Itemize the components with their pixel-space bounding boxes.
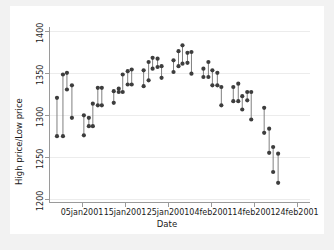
y-tick-label-1350: 1350	[36, 65, 45, 85]
data-point-low	[245, 98, 249, 102]
data-point-high	[87, 116, 91, 120]
data-point-low	[262, 131, 266, 135]
data-point-low	[249, 117, 253, 121]
y-axis-title: High price/Low price	[14, 98, 24, 185]
data-point-low	[87, 124, 91, 128]
data-point-high	[100, 86, 104, 90]
data-point-high	[61, 72, 65, 76]
data-point-low	[176, 64, 180, 68]
data-point-high	[126, 69, 130, 73]
x-tick-14feb2001	[254, 203, 255, 207]
data-point-low	[276, 181, 280, 185]
y-tick-label-1250: 1250	[36, 149, 45, 169]
data-point-low	[142, 84, 146, 88]
data-point-high	[206, 60, 210, 64]
data-point-low	[215, 83, 219, 87]
data-point-low	[112, 101, 116, 105]
data-point-low	[240, 107, 244, 111]
data-point-high	[171, 58, 175, 62]
data-point-low	[121, 90, 125, 94]
x-tick-05jan2001	[82, 203, 83, 207]
data-point-high	[271, 145, 275, 149]
data-point-low	[147, 78, 151, 82]
data-point-low	[185, 61, 189, 65]
data-point-high	[267, 127, 271, 131]
data-point-high	[159, 64, 163, 68]
data-point-low	[206, 75, 210, 79]
data-point-low	[70, 116, 74, 120]
x-tick-label-24feb2001: 24feb2001	[275, 208, 318, 217]
x-tick-label-15jan2001: 15jan2001	[104, 208, 147, 217]
data-point-low	[117, 90, 121, 94]
x-tick-label-04feb2001: 04feb2001	[189, 208, 232, 217]
x-axis-title: Date	[0, 219, 334, 229]
data-point-low	[267, 151, 271, 155]
x-tick-label-14feb2001: 14feb2001	[232, 208, 275, 217]
data-point-low	[65, 87, 69, 91]
data-point-high	[189, 50, 193, 54]
data-point-high	[82, 113, 86, 117]
data-point-low	[271, 170, 275, 174]
data-point-low	[180, 62, 184, 66]
data-point-high	[180, 43, 184, 47]
data-point-low	[201, 75, 205, 79]
x-tick-15jan2001	[125, 203, 126, 207]
data-point-low	[159, 76, 163, 80]
data-point-high	[130, 67, 134, 71]
data-point-high	[55, 96, 59, 100]
data-point-low	[219, 103, 223, 107]
data-point-high	[151, 56, 155, 60]
data-point-high	[210, 68, 214, 72]
y-tick-label-1400: 1400	[36, 23, 45, 43]
data-point-high	[240, 94, 244, 98]
x-tick-label-25jan2001: 25jan2001	[147, 208, 190, 217]
data-point-low	[100, 103, 104, 107]
data-point-high	[155, 57, 159, 61]
data-point-high	[112, 89, 116, 93]
data-point-high	[147, 60, 151, 64]
data-point-high	[91, 102, 95, 106]
data-point-low	[189, 72, 193, 76]
data-layer	[50, 27, 310, 202]
data-point-low	[91, 124, 95, 128]
data-point-high	[96, 86, 100, 90]
data-point-low	[82, 133, 86, 137]
data-point-low	[236, 99, 240, 103]
data-point-low	[55, 134, 59, 138]
x-tick-25jan2001	[168, 203, 169, 207]
plot-area	[49, 27, 310, 203]
data-point-low	[96, 103, 100, 107]
data-point-low	[126, 82, 130, 86]
data-point-low	[231, 99, 235, 103]
x-tick-label-05jan2001: 05jan2001	[61, 208, 104, 217]
data-point-low	[171, 70, 175, 74]
chart-figure: High price/Low price 1200125013001350140…	[0, 0, 334, 250]
y-tick-label-1200: 1200	[36, 190, 45, 210]
data-point-high	[219, 85, 223, 89]
data-point-low	[210, 83, 214, 87]
data-point-high	[70, 83, 74, 87]
data-point-low	[61, 134, 65, 138]
data-point-low	[155, 65, 159, 69]
data-point-high	[185, 51, 189, 55]
data-point-low	[130, 82, 134, 86]
data-point-high	[262, 106, 266, 110]
data-point-low	[151, 67, 155, 71]
data-point-high	[276, 152, 280, 156]
data-point-high	[176, 49, 180, 53]
data-point-high	[249, 90, 253, 94]
data-point-high	[121, 72, 125, 76]
x-tick-04feb2001	[211, 203, 212, 207]
data-point-high	[215, 71, 219, 75]
data-point-high	[245, 90, 249, 94]
data-point-high	[142, 68, 146, 72]
y-tick-label-1300: 1300	[36, 107, 45, 127]
x-tick-24feb2001	[297, 203, 298, 207]
data-point-high	[231, 85, 235, 89]
data-point-high	[236, 82, 240, 86]
data-point-high	[201, 67, 205, 71]
data-point-high	[65, 71, 69, 75]
